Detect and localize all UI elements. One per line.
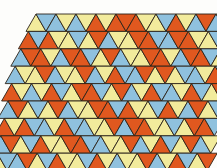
tessellation-canvas	[0, 0, 217, 168]
triangle-layer	[0, 14, 217, 168]
tessellation-figure	[0, 0, 217, 168]
